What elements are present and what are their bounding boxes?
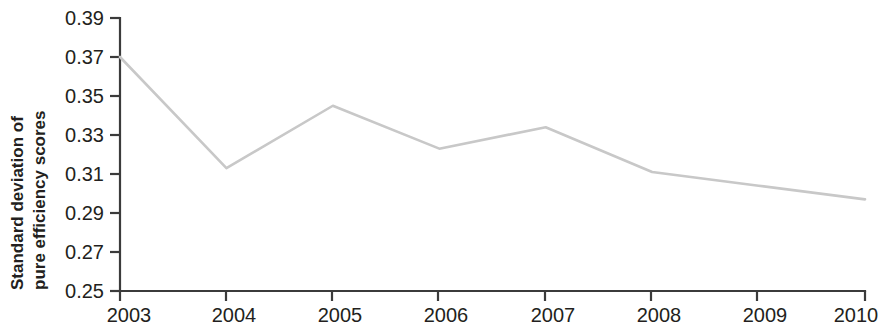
x-tick-label: 2004 bbox=[212, 304, 257, 326]
x-tick-label: 2009 bbox=[743, 304, 788, 326]
y-tick-label: 0.37 bbox=[65, 46, 104, 68]
x-tick-label: 2006 bbox=[424, 304, 469, 326]
x-tick-label: 2007 bbox=[531, 304, 576, 326]
x-tick-label: 2010 bbox=[834, 304, 879, 326]
x-tick-label: 2003 bbox=[107, 304, 152, 326]
y-tick-label: 0.25 bbox=[65, 280, 104, 302]
y-tick-label: 0.29 bbox=[65, 202, 104, 224]
line-chart: Standard deviation of pure efficiency sc… bbox=[0, 0, 885, 327]
x-tick-label: 2005 bbox=[318, 304, 363, 326]
y-tick-label: 0.35 bbox=[65, 85, 104, 107]
y-axis-title-line-2: pure efficiency scores bbox=[30, 110, 49, 290]
y-axis-title-line-1: Standard deviation of bbox=[8, 116, 27, 290]
y-tick-label: 0.33 bbox=[65, 124, 104, 146]
y-tick-label: 0.31 bbox=[65, 163, 104, 185]
y-tick-label: 0.27 bbox=[65, 241, 104, 263]
chart-canvas: Standard deviation of pure efficiency sc… bbox=[0, 0, 885, 327]
y-tick-label: 0.39 bbox=[65, 7, 104, 29]
chart-background bbox=[0, 0, 885, 327]
x-tick-label: 2008 bbox=[637, 304, 682, 326]
